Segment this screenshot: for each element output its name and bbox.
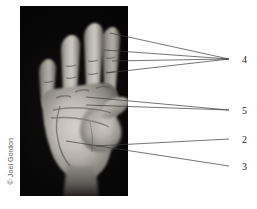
- callout-label-3: 3: [242, 162, 247, 172]
- photo-credit: © Joel Gordon: [7, 123, 14, 185]
- callout-label-4: 4: [242, 55, 247, 65]
- hand-image: [20, 6, 128, 196]
- callout-label-5: 5: [242, 106, 247, 116]
- hand-photograph: [20, 6, 128, 196]
- wrist: [63, 164, 99, 196]
- anatomy-figure: © Joel Gordon 4 5 2 3: [0, 0, 257, 209]
- callout-label-2: 2: [242, 135, 247, 145]
